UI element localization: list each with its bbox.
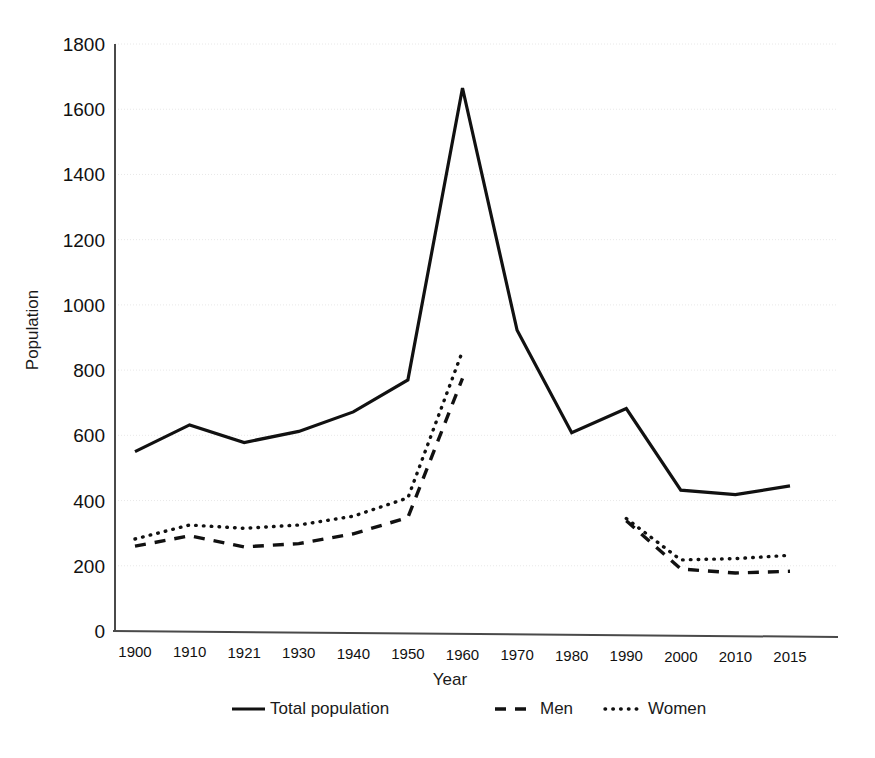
legend-label-total-population: Total population bbox=[270, 699, 389, 718]
chart-figure: 020040060080010001200140016001800 190019… bbox=[0, 0, 875, 758]
y-tick-label: 600 bbox=[73, 425, 105, 446]
y-tick-label: 1600 bbox=[63, 99, 105, 120]
y-tick-label: 1800 bbox=[63, 34, 105, 55]
x-tick-label: 1960 bbox=[446, 646, 479, 663]
x-tick-label: 2010 bbox=[719, 648, 752, 665]
x-tick-label: 1970 bbox=[500, 646, 533, 663]
y-axis-title: Population bbox=[23, 290, 42, 370]
x-tick-label: 1980 bbox=[555, 647, 588, 664]
y-tick-label: 400 bbox=[73, 491, 105, 512]
x-axis-title: Year bbox=[433, 670, 468, 689]
x-tick-label: 1921 bbox=[227, 644, 260, 661]
y-tick-label: 1200 bbox=[63, 230, 105, 251]
x-tick-label: 1950 bbox=[391, 645, 424, 662]
x-tick-label: 1900 bbox=[118, 643, 151, 660]
legend-label-women: Women bbox=[648, 699, 706, 718]
x-tick-label: 1990 bbox=[610, 647, 643, 664]
y-tick-label: 1000 bbox=[63, 295, 105, 316]
x-tick-label: 1940 bbox=[337, 645, 370, 662]
x-tick-label: 1910 bbox=[173, 643, 206, 660]
y-tick-label: 0 bbox=[94, 621, 105, 642]
x-tick-label: 1930 bbox=[282, 644, 315, 661]
y-tick-label: 200 bbox=[73, 556, 105, 577]
legend-label-men: Men bbox=[540, 699, 573, 718]
population-line-chart: 020040060080010001200140016001800 190019… bbox=[0, 0, 875, 758]
x-tick-label: 2000 bbox=[664, 648, 697, 665]
x-tick-label: 2015 bbox=[773, 648, 806, 665]
y-tick-label: 800 bbox=[73, 360, 105, 381]
y-tick-label: 1400 bbox=[63, 164, 105, 185]
